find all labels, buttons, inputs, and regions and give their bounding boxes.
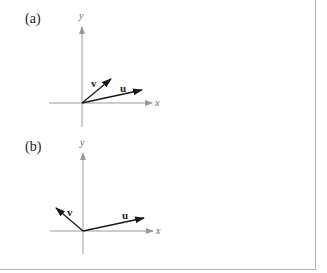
panel-a-y-label: y: [78, 10, 84, 21]
panel-b-y-label: y: [79, 137, 85, 148]
panel-a-v-label: v: [91, 77, 97, 89]
panel-a: x y v u: [49, 10, 160, 127]
vector-diagram: x y v u x y v u: [0, 0, 327, 273]
panel-a-x-label: x: [154, 97, 160, 108]
panel-b-v-label: v: [67, 206, 73, 218]
panel-a-vector-u: [82, 90, 142, 103]
panel-b-vector-u: [83, 218, 144, 231]
panel-b-x-label: x: [155, 225, 161, 236]
panel-a-u-label: u: [120, 82, 126, 94]
panel-b: x y v u: [50, 137, 161, 254]
panel-b-u-label: u: [122, 209, 128, 221]
